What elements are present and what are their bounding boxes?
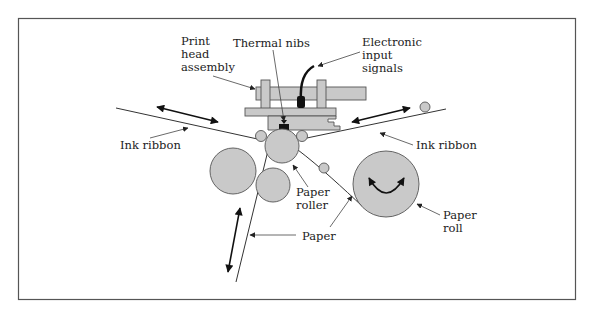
leader-ink-ribbon-left (150, 128, 188, 138)
print-head-assembly (245, 80, 366, 130)
ribbon-takeup-roller (420, 102, 430, 112)
printer-diagram: Print head assembly Thermal nibs Electro… (0, 0, 595, 316)
paper-roll (353, 151, 419, 217)
leader-paper-roll (417, 204, 440, 215)
label-ink-ribbon-right: Ink ribbon (416, 138, 477, 152)
label-paper-roll: Paper roll (443, 208, 480, 235)
paper-motion-double-arrow (228, 208, 240, 272)
guide-roller-left (256, 131, 267, 142)
ribbon-right-double-arrow (352, 108, 410, 122)
label-electronic-input-signals: Electronic input signals (362, 35, 426, 75)
guide-roller-lower (319, 163, 329, 173)
ribbon-left-double-arrow (157, 107, 218, 122)
leader-paper-roller (293, 165, 308, 187)
label-paper: Paper (302, 229, 336, 243)
feed-roller-small (256, 168, 290, 202)
leader-print-head (213, 76, 255, 89)
leader-electronic-signals (318, 52, 360, 66)
label-paper-roller: Paper roller (296, 185, 333, 212)
leader-paper-right (330, 196, 352, 227)
leader-ink-ribbon-right (380, 133, 413, 145)
paper-roller (265, 129, 299, 163)
diagram-frame (19, 19, 576, 300)
cable-connector (297, 96, 305, 108)
label-print-head-assembly: Print head assembly (181, 34, 235, 74)
guide-roller-right (297, 131, 308, 142)
ink-ribbon-left-line (116, 108, 262, 140)
label-ink-ribbon-left: Ink ribbon (120, 138, 181, 152)
label-thermal-nibs: Thermal nibs (233, 36, 310, 50)
feed-roller-large (210, 148, 256, 194)
